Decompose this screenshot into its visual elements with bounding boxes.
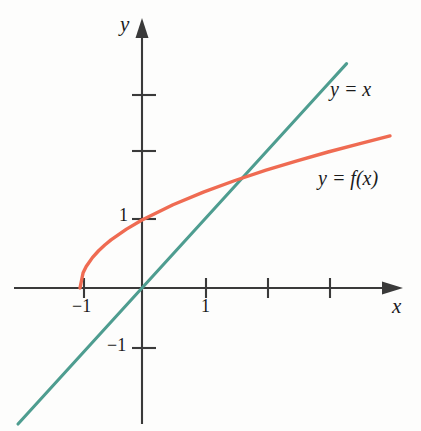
graph-figure: y x y = x y = f(x) −1 1 1 −1	[0, 0, 421, 431]
y-tick-label--1: −1	[107, 336, 126, 354]
x-tick-label-1: 1	[201, 297, 210, 315]
x-axis-arrow-icon	[382, 282, 403, 295]
identity-line-label: y = x	[330, 79, 371, 99]
x-tick-label--1: −1	[72, 297, 91, 315]
y-axis-label: y	[120, 14, 129, 35]
y-axis-arrow-icon	[136, 18, 149, 38]
y-tick-label-1: 1	[119, 206, 128, 224]
plot-canvas	[0, 0, 421, 431]
x-axis-label: x	[392, 296, 401, 317]
function-curve-label: y = f(x)	[318, 168, 378, 188]
y-axis-ticks	[132, 95, 156, 348]
identity-line-curve	[18, 64, 347, 424]
